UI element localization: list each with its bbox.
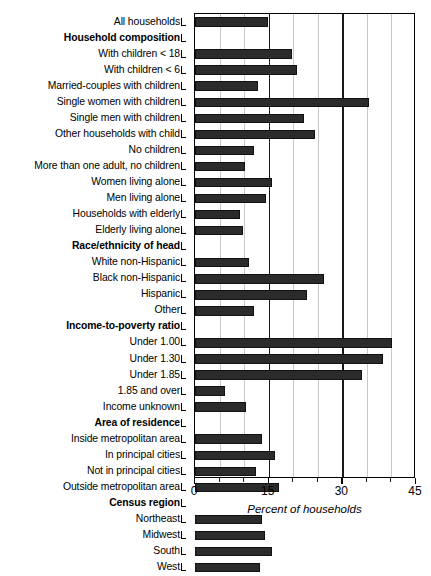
category-label: Household composition	[0, 29, 189, 45]
category-label-text: Area of residence	[94, 417, 180, 428]
x-axis-tick-labels: 0153045	[154, 484, 431, 500]
label-leader-tick	[181, 82, 186, 90]
category-label-text: Income unknown	[103, 401, 180, 412]
label-leader-tick	[181, 467, 186, 475]
plot-area	[194, 13, 415, 478]
x-axis-title: Percent of households	[194, 503, 415, 515]
bar	[195, 563, 260, 573]
label-leader-tick	[181, 178, 186, 186]
category-label: Under 1.30	[0, 350, 189, 366]
bar-row	[195, 415, 414, 431]
label-leader-tick	[181, 258, 186, 266]
category-label: No children	[0, 141, 189, 157]
category-label: Black non-Hispanic	[0, 270, 189, 286]
bar	[195, 258, 249, 268]
bar-row	[195, 399, 414, 415]
category-label: Under 1.00	[0, 334, 189, 350]
category-label: Other	[0, 302, 189, 318]
category-label-text: Race/ethnicity of head	[72, 240, 180, 251]
bar-row	[195, 383, 414, 399]
bar	[195, 434, 262, 444]
category-label-text: Not in principal cities	[87, 465, 180, 476]
label-leader-tick	[181, 242, 186, 250]
bar-row	[195, 335, 414, 351]
category-label: Area of residence	[0, 414, 189, 430]
bar-row	[195, 319, 414, 335]
bar-series	[195, 14, 414, 477]
bar	[195, 226, 243, 236]
bar-row	[195, 447, 414, 463]
label-leader-tick	[181, 355, 186, 363]
category-label-text: No children	[129, 144, 180, 155]
label-leader-tick	[181, 322, 186, 330]
x-tick-minor	[317, 478, 318, 482]
category-label: Men living alone	[0, 190, 189, 206]
bar	[195, 81, 258, 91]
bar	[195, 130, 315, 140]
bar	[195, 451, 275, 461]
x-tick-label: 45	[408, 484, 421, 498]
category-label-text: With children < 18	[98, 48, 180, 59]
category-label: Hispanic	[0, 286, 189, 302]
category-label: Midwest	[0, 527, 189, 543]
bar-row	[195, 126, 414, 142]
x-tick-minor	[292, 478, 293, 482]
bar-row	[195, 158, 414, 174]
bar	[195, 274, 324, 284]
category-label-text: Inside metropolitan area	[71, 433, 180, 444]
label-leader-tick	[181, 210, 186, 218]
category-label-text: Other households with child	[55, 128, 180, 139]
label-leader-tick	[181, 114, 186, 122]
bar	[195, 98, 369, 108]
category-label: Elderly living alone	[0, 222, 189, 238]
bar-row	[195, 351, 414, 367]
bar-row	[195, 528, 414, 544]
category-label-text: Under 1.85	[130, 369, 180, 380]
bar-row	[195, 239, 414, 255]
bar	[195, 146, 254, 156]
bar-row	[195, 30, 414, 46]
bar-row	[195, 560, 414, 576]
category-label-text: Under 1.30	[130, 353, 180, 364]
category-label-text: Elderly living alone	[95, 224, 180, 235]
category-label-text: All households	[114, 16, 180, 27]
x-tick-minor	[219, 478, 220, 482]
bar	[195, 162, 245, 172]
bar-row	[195, 191, 414, 207]
label-leader-tick	[181, 451, 186, 459]
category-label: More than one adult, no children	[0, 157, 189, 173]
label-leader-tick	[181, 338, 186, 346]
bar-row	[195, 174, 414, 190]
label-leader-tick	[181, 130, 186, 138]
category-label-text: White non-Hispanic	[92, 256, 180, 267]
bar	[195, 467, 256, 477]
bar	[195, 515, 262, 525]
category-label-text: Household composition	[64, 32, 180, 43]
category-label-text: Other	[155, 304, 181, 315]
label-leader-tick	[181, 50, 186, 58]
x-tick-minor	[366, 478, 367, 482]
bar	[195, 290, 307, 300]
label-leader-tick	[181, 290, 186, 298]
x-tick-label: 0	[191, 484, 198, 498]
bar	[195, 547, 272, 557]
x-tick-minor	[243, 478, 244, 482]
label-leader-tick	[181, 547, 186, 555]
category-label: Single women with children	[0, 93, 189, 109]
x-tick-label: 15	[261, 484, 274, 498]
bar	[195, 210, 240, 220]
category-label-text: With children < 6	[104, 64, 180, 75]
label-leader-tick	[181, 98, 186, 106]
category-label: In principal cities	[0, 446, 189, 462]
category-label-text: Married-couples with children	[48, 80, 180, 91]
bar-row	[195, 223, 414, 239]
bar	[195, 531, 265, 541]
bar	[195, 17, 268, 27]
category-label-text: Single women with children	[57, 96, 180, 107]
bar-row	[195, 255, 414, 271]
bar-row	[195, 367, 414, 383]
bar	[195, 354, 383, 364]
category-label: Women living alone	[0, 173, 189, 189]
label-leader-tick	[181, 34, 186, 42]
